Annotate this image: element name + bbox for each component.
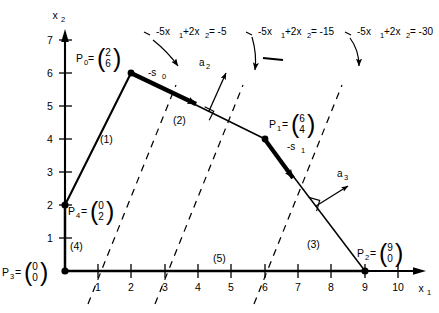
y-tick-2: 2 xyxy=(47,199,53,211)
lp-diagram-figure: 1 2 3 4 5 6 7 1 2 3 4 5 6 7 8 9 10 x 1 x… xyxy=(0,0,439,313)
vertex-label-p0-paren-close: ) xyxy=(113,44,121,72)
vertex-label-p1-eq: = xyxy=(282,118,288,130)
contour-label--5-lhs: -5x xyxy=(156,26,170,37)
contour-label--5-mid: +2x xyxy=(183,26,199,37)
y-tick-3: 3 xyxy=(47,166,53,178)
vector-label-a3-sub: 3 xyxy=(344,173,348,182)
vertex-label-p0-x: 2 xyxy=(105,47,111,58)
vertex-label-p0: P 0 = ( 2 6 ) xyxy=(76,44,121,72)
y-tick-6: 6 xyxy=(47,67,53,79)
contour-label--30: -5x 1 +2x 2 = -30 xyxy=(357,26,434,40)
vertex-label-p1-name: P xyxy=(269,118,276,130)
normal-vector-a2 xyxy=(205,73,226,120)
x-axis-label-sub: 1 xyxy=(427,288,431,297)
edge-label-5: (5) xyxy=(213,252,226,264)
leader-arrow--15 xyxy=(252,37,256,70)
edge-label-2: (2) xyxy=(173,114,186,126)
leader-tick--5 xyxy=(144,32,150,35)
y-axis-label: x xyxy=(52,9,58,21)
x-tick-9: 9 xyxy=(362,281,368,293)
vector-label-a3-name: a xyxy=(337,168,343,179)
contour-label--30-lhs: -5x xyxy=(357,26,371,37)
contour-leaders xyxy=(144,32,359,70)
x-tick-1: 1 xyxy=(95,281,101,293)
y-tick-5: 5 xyxy=(47,100,53,112)
edge-label-3: (3) xyxy=(307,238,320,250)
normal-vector-a3 xyxy=(309,186,348,211)
vector-label--s0-sub: 0 xyxy=(162,72,166,81)
vertex-label-p0-name: P xyxy=(76,52,83,64)
y-tick-7: 7 xyxy=(47,34,53,46)
vertex-label-p1-x: 6 xyxy=(299,113,305,124)
vertex-label-p4-eq: = xyxy=(81,205,87,217)
vertex-label-p2-name: P xyxy=(357,247,364,259)
vertex-label-p1-y: 4 xyxy=(299,124,305,135)
x-tick-8: 8 xyxy=(328,281,334,293)
y-tick-4: 4 xyxy=(47,133,53,145)
contour-label--15-mid: +2x xyxy=(285,26,301,37)
x-tick-10: 10 xyxy=(392,281,404,293)
vertex-label-p3-name: P xyxy=(2,266,9,278)
y-axis-label-sub: 2 xyxy=(61,15,65,24)
vertex-label-p4-sub: 4 xyxy=(76,211,80,220)
vertex-label-p3: P 3 = ( 0 0 ) xyxy=(2,258,48,286)
right-angle-mark-a2 xyxy=(205,107,214,120)
vertex-label-p3-paren-close: ) xyxy=(40,258,48,286)
dash-mark-center xyxy=(263,58,283,60)
vector-label--s0-name: -s xyxy=(148,67,156,78)
vertex-label-p1: P 1 = ( 6 4 ) xyxy=(269,110,315,138)
x-tick-6: 6 xyxy=(262,281,268,293)
x-tick-labels: 1 2 3 4 5 6 7 8 9 10 xyxy=(95,281,404,293)
vertex-label-p0-y: 6 xyxy=(105,58,111,69)
contour-label--15-rhs: = -15 xyxy=(311,26,335,37)
axis-name-x1: x 1 xyxy=(418,282,431,297)
vector-label-a2-sub: 2 xyxy=(206,62,210,71)
leader-arrow--5 xyxy=(153,40,178,66)
vertex-label-p4-x: 0 xyxy=(98,200,104,211)
vertex-label-p3-x: 0 xyxy=(32,261,38,272)
vertex-label-p0-eq: = xyxy=(88,52,94,64)
vertex-label-p4: P 4 = ( 0 2 ) xyxy=(68,197,114,225)
vertex-label-p2-paren-close: ) xyxy=(395,239,403,267)
x-tick-4: 4 xyxy=(195,281,201,293)
vector-label-a3: a 3 xyxy=(337,168,348,182)
leader-tick--30 xyxy=(345,32,351,35)
vertex-label-p4-paren-close: ) xyxy=(106,197,114,225)
contour-label--5-rhs: = -5 xyxy=(209,26,227,37)
vertex-label-p3-y: 0 xyxy=(32,272,38,283)
vertex-markers xyxy=(61,70,368,275)
x-axis-arrowhead xyxy=(413,267,426,275)
vector-label--s1-name: -s xyxy=(287,141,295,152)
edge-1-line xyxy=(65,73,131,205)
vector-label--s1: -s 1 xyxy=(287,141,305,155)
vertex-label-p2-y: 0 xyxy=(387,253,393,264)
vector-label-a2-name: a xyxy=(199,57,205,68)
edge-label-4: (4) xyxy=(70,240,83,252)
vertex-label-p2-x: 9 xyxy=(387,242,393,253)
leader-arrow--30 xyxy=(350,38,359,66)
x-tick-7: 7 xyxy=(295,281,301,293)
contour-label--15: -5x 1 +2x 2 = -15 xyxy=(258,26,335,40)
x-axis-label: x xyxy=(418,282,424,294)
vertex-label-p2: P 2 = ( 9 0 ) xyxy=(357,239,403,267)
vertex-label-p2-sub: 2 xyxy=(365,253,369,262)
diagram-canvas: 1 2 3 4 5 6 7 1 2 3 4 5 6 7 8 9 10 x 1 x… xyxy=(0,0,439,313)
axis-name-x2: x 2 xyxy=(52,9,65,24)
vector-label--s1-sub: 1 xyxy=(301,146,305,155)
vertex-label-p1-paren-close: ) xyxy=(307,110,315,138)
vertex-label-p3-eq: = xyxy=(15,266,21,278)
y-tick-labels: 1 2 3 4 5 6 7 xyxy=(47,34,53,244)
contour-label--30-mid: +2x xyxy=(384,26,400,37)
leader-tick--15 xyxy=(246,32,252,35)
vertex-label-p1-sub: 1 xyxy=(277,124,281,133)
vertex-dot-p2 xyxy=(361,267,368,274)
feasible-region-boundary xyxy=(65,73,365,271)
y-tick-1: 1 xyxy=(47,232,53,244)
vertex-label-p4-y: 2 xyxy=(98,211,104,222)
edge-label-1: (1) xyxy=(100,133,113,145)
vector-label--s0: -s 0 xyxy=(148,67,166,81)
vector-label-a2: a 2 xyxy=(199,57,210,71)
vertex-label-p2-eq: = xyxy=(370,247,376,259)
x-tick-5: 5 xyxy=(228,281,234,293)
vertex-label-p3-sub: 3 xyxy=(10,272,14,281)
